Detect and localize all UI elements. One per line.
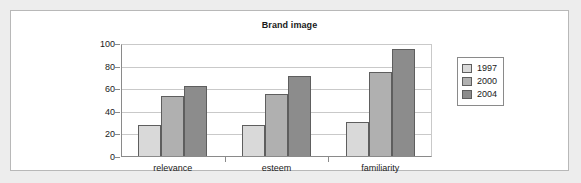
y-axis-tick-label: 0 [89, 152, 115, 162]
legend-item-label: 1997 [477, 64, 497, 73]
y-axis-tick-label: 80 [89, 62, 115, 72]
y-axis-tick-mark [115, 134, 120, 135]
y-axis-tick-mark [115, 67, 120, 68]
x-axis-tick-mark [328, 157, 329, 162]
legend-item-2000[interactable]: 2000 [462, 75, 497, 88]
legend-item-2004[interactable]: 2004 [462, 88, 497, 101]
bar-esteem-2004 [288, 76, 311, 157]
x-axis-category-label: esteem [262, 163, 292, 173]
bar-familiarity-2000 [369, 72, 392, 157]
y-axis-tick-label: 40 [89, 107, 115, 117]
gridline [121, 67, 432, 68]
y-axis-tick-mark [115, 112, 120, 113]
legend-item-label: 2000 [477, 77, 497, 86]
y-axis-labels: 020406080100 [87, 44, 115, 157]
x-axis-category-label: relevance [153, 163, 192, 173]
y-axis-tick-label: 100 [89, 39, 115, 49]
legend-item-label: 2004 [477, 90, 497, 99]
y-axis-tick-mark [115, 89, 120, 90]
legend-swatch-icon [462, 77, 472, 86]
y-axis-tick-mark [115, 157, 120, 158]
y-axis-tick-mark [115, 44, 120, 45]
bar-familiarity-1997 [346, 122, 369, 157]
y-axis-tick-label: 20 [89, 129, 115, 139]
bar-relevance-1997 [138, 125, 161, 157]
bar-familiarity-2004 [392, 49, 415, 157]
x-axis-category-label: familiarity [361, 163, 399, 173]
bar-esteem-1997 [242, 125, 265, 157]
bar-esteem-2000 [265, 94, 288, 157]
legend-swatch-icon [462, 90, 472, 99]
plot-area [121, 44, 432, 157]
legend-swatch-icon [462, 64, 472, 73]
chart-title: Brand image [11, 20, 568, 30]
x-axis-tick-mark [225, 157, 226, 162]
bar-relevance-2004 [184, 86, 207, 157]
chart-legend: 199720002004 [457, 57, 504, 106]
chart-page: Brand image 020406080100 relevanceesteem… [0, 0, 581, 183]
bar-relevance-2000 [161, 96, 184, 157]
y-axis-tick-label: 60 [89, 84, 115, 94]
legend-item-1997[interactable]: 1997 [462, 62, 497, 75]
gridline [121, 44, 432, 45]
chart-panel: Brand image 020406080100 relevanceesteem… [10, 10, 569, 171]
